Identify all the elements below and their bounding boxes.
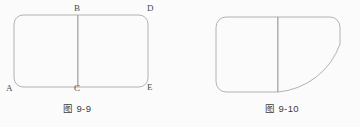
left-rounded-rectangle (14, 15, 78, 87)
figure-9-10-block: 图 9-10 (180, 0, 360, 127)
caption-figure-9-10: 图 9-10 (265, 103, 299, 114)
vertex-label-d: D (147, 4, 154, 13)
curved-quadrant-shape (278, 17, 340, 92)
vertex-label-c: C (74, 84, 80, 93)
vertex-label-e: E (147, 83, 153, 92)
rounded-square (216, 17, 278, 92)
figure-9-9-block: A B C D E 图 9-9 (0, 0, 180, 127)
figure-9-9-drawing (0, 0, 180, 100)
figure-page: A B C D E 图 9-9 图 9-10 (0, 0, 360, 127)
vertex-label-b: B (74, 4, 80, 13)
caption-figure-9-9: 图 9-9 (63, 103, 91, 114)
vertex-label-a: A (6, 84, 13, 93)
figure-9-10-drawing (180, 0, 360, 100)
right-rounded-rectangle (78, 15, 148, 87)
